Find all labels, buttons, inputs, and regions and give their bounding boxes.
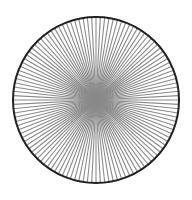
spoke-circle-figure <box>0 0 192 200</box>
spoke-circle-svg <box>0 0 192 200</box>
